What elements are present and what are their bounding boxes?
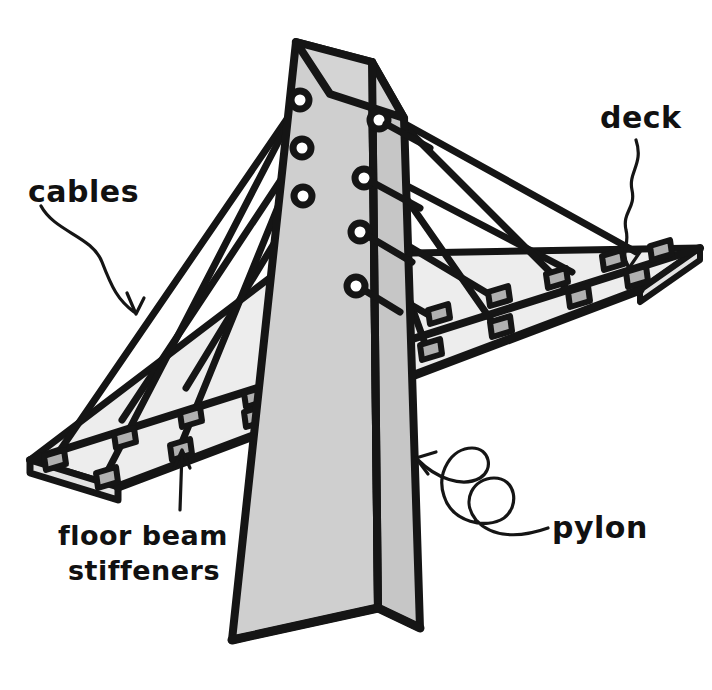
label-pylon: pylon: [552, 510, 648, 545]
label-floor-beam-line1: floor beam: [58, 520, 228, 551]
stiffener-near-5: [420, 339, 442, 360]
stiffener-far-5: [428, 304, 450, 324]
stiffener-far-6: [488, 286, 510, 306]
cables-leader-arrow: [41, 206, 134, 312]
label-deck: deck: [600, 100, 682, 135]
stiffener-far-3: [180, 407, 202, 427]
stiffener-near-6: [490, 316, 512, 337]
anchor-rings-left-face: [291, 91, 312, 205]
anchor-ring-l1: [291, 91, 309, 109]
callout-pylon: pylon: [416, 448, 648, 545]
stiffeners-leader-arrow: [180, 452, 182, 510]
stiffener-far-7: [546, 268, 568, 288]
stiffener-near-1: [96, 467, 118, 488]
bridge-illustration: cables deck pylon floor beam stiffeners: [0, 0, 712, 690]
anchor-ring-l2: [293, 139, 311, 157]
label-cables: cables: [28, 174, 139, 209]
stiffener-far-1: [44, 450, 66, 470]
cables-arrowhead: [127, 293, 144, 314]
stiffener-far-2: [114, 428, 136, 448]
callout-cables: cables: [28, 174, 144, 314]
stiffener-near-7: [568, 286, 590, 307]
pylon-leader-arrow: [418, 448, 548, 535]
label-floor-beam-line2: stiffeners: [68, 555, 220, 586]
bridge-diagram: cables deck pylon floor beam stiffeners: [0, 0, 712, 690]
pylon-group: [232, 42, 420, 640]
stiffener-far-9: [650, 240, 672, 260]
anchor-ring-l3: [294, 187, 312, 205]
